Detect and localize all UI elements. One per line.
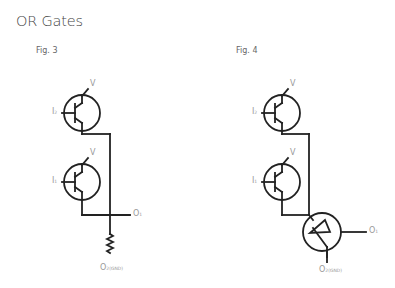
fig3-v-top-label: V	[90, 79, 95, 88]
fig4-v-bottom-label: V	[290, 148, 295, 157]
fig4-output-2-label: O2(GND)	[319, 265, 342, 274]
transistor-bottom-icon	[262, 158, 300, 215]
fig3-input-2-label: I2	[52, 107, 57, 116]
fig3-input-1-label: I1	[52, 176, 57, 185]
fig3-v-bottom-label: V	[90, 148, 95, 157]
fig3-output-1-label: O1	[133, 209, 142, 218]
fig4-v-top-label: V	[290, 79, 295, 88]
resistor-icon	[107, 234, 113, 253]
fig4-input-1-label: I1	[252, 176, 257, 185]
figure-3-circuit	[62, 89, 130, 253]
transistor-top-icon	[262, 89, 300, 134]
fig3-output-2-label: O2(GND)	[100, 263, 123, 272]
fig4-output-1-label: O1	[369, 226, 378, 235]
transistor-bottom-icon	[62, 158, 100, 215]
output-device-icon	[303, 213, 366, 262]
fig4-input-2-label: I2	[252, 107, 257, 116]
transistor-top-icon	[62, 89, 100, 134]
figure-4-circuit	[262, 89, 366, 262]
or-gate-diagrams	[0, 0, 395, 288]
